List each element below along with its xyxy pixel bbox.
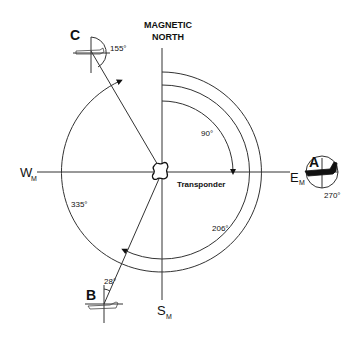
transponder-icon <box>153 163 168 180</box>
transponder-label: Transponder <box>177 180 225 189</box>
arc-90-label: 90° <box>201 129 213 138</box>
aircraft-c-label: C <box>70 27 80 43</box>
south-label: S <box>157 303 166 318</box>
aircraft-c: C 155° <box>70 27 127 73</box>
aircraft-b-label: B <box>86 287 96 303</box>
aircraft-b: B 28° <box>85 277 123 323</box>
title-north: NORTH <box>152 32 184 42</box>
aircraft-a: A 270° <box>305 154 341 200</box>
airplane-icon <box>88 302 118 309</box>
east-label: E <box>290 170 299 185</box>
aircraft-a-label: A <box>309 154 319 170</box>
bearing-line-c <box>91 51 162 172</box>
title-magnetic: MAGNETIC <box>144 20 192 30</box>
west-sub: M <box>31 175 37 182</box>
arc-206-label: 206° <box>212 224 229 233</box>
aircraft-a-heading: 270° <box>324 191 341 200</box>
south-sub: M <box>166 313 172 320</box>
aircraft-b-heading: 28° <box>104 277 116 286</box>
arc-90 <box>162 101 233 172</box>
aircraft-c-heading: 155° <box>110 44 127 53</box>
arc-335-label: 335° <box>71 200 88 209</box>
bearing-diagram: C 155° A 270° B 28° MAGNETIC NORTH W M E… <box>0 0 354 338</box>
east-sub: M <box>299 179 305 186</box>
